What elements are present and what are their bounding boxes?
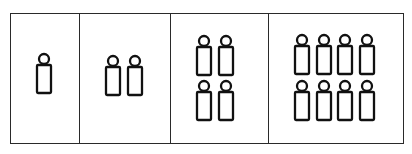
person-body-icon bbox=[197, 92, 211, 120]
panel-4-figures bbox=[295, 35, 374, 120]
person-icon bbox=[197, 81, 211, 120]
person-head-icon bbox=[199, 81, 209, 91]
person-body-icon bbox=[37, 65, 51, 93]
person-body-icon bbox=[360, 92, 374, 120]
person-body-icon bbox=[317, 92, 331, 120]
person-body-icon bbox=[338, 92, 352, 120]
person-head-icon bbox=[39, 54, 49, 64]
person-icon bbox=[360, 35, 374, 74]
person-head-icon bbox=[221, 81, 231, 91]
person-body-icon bbox=[317, 46, 331, 74]
person-body-icon bbox=[106, 67, 120, 95]
person-icon bbox=[37, 54, 51, 93]
person-head-icon bbox=[297, 81, 307, 91]
person-icon bbox=[295, 35, 309, 74]
person-head-icon bbox=[130, 56, 140, 66]
person-icon bbox=[197, 36, 211, 75]
person-head-icon bbox=[340, 81, 350, 91]
person-icon bbox=[106, 56, 120, 95]
person-icon bbox=[338, 35, 352, 74]
person-head-icon bbox=[362, 35, 372, 45]
person-head-icon bbox=[108, 56, 118, 66]
person-head-icon bbox=[362, 81, 372, 91]
person-icon bbox=[295, 81, 309, 120]
person-body-icon bbox=[219, 92, 233, 120]
person-head-icon bbox=[199, 36, 209, 46]
panel-3-figures bbox=[197, 36, 233, 120]
person-body-icon bbox=[295, 46, 309, 74]
person-body-icon bbox=[128, 67, 142, 95]
person-body-icon bbox=[338, 46, 352, 74]
person-body-icon bbox=[219, 47, 233, 75]
person-icon bbox=[338, 81, 352, 120]
person-head-icon bbox=[297, 35, 307, 45]
person-body-icon bbox=[197, 47, 211, 75]
person-icon bbox=[219, 36, 233, 75]
person-icon bbox=[219, 81, 233, 120]
person-icon bbox=[317, 35, 331, 74]
person-head-icon bbox=[319, 35, 329, 45]
person-body-icon bbox=[360, 46, 374, 74]
person-icon bbox=[360, 81, 374, 120]
panel-1-figures bbox=[37, 54, 51, 93]
person-head-icon bbox=[319, 81, 329, 91]
person-head-icon bbox=[340, 35, 350, 45]
person-body-icon bbox=[295, 92, 309, 120]
person-head-icon bbox=[221, 36, 231, 46]
person-icon bbox=[128, 56, 142, 95]
person-icon bbox=[317, 81, 331, 120]
panel-2-figures bbox=[106, 56, 142, 95]
figures-layer bbox=[0, 0, 412, 154]
